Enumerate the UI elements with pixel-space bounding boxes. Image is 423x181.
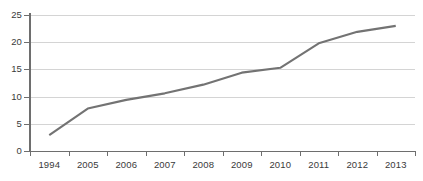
y-tick-mark: [24, 124, 30, 125]
x-tick-mark: [338, 151, 339, 156]
x-tick-label: 2013: [385, 159, 407, 170]
x-tick-mark: [146, 151, 147, 156]
x-tick-label: 2008: [192, 159, 214, 170]
x-tick-mark: [377, 151, 378, 156]
x-tick-label: 2011: [308, 159, 329, 170]
y-tick-mark: [24, 42, 30, 43]
x-tick-label: 2006: [115, 159, 137, 170]
x-tick-mark: [223, 151, 224, 156]
x-tick-mark: [415, 151, 416, 156]
x-tick-label: 2010: [269, 159, 291, 170]
x-tick-mark: [30, 151, 31, 156]
x-tick-mark: [300, 151, 301, 156]
x-tick-mark: [107, 151, 108, 156]
series-layer: [0, 0, 423, 181]
x-tick-label: 1994: [38, 159, 60, 170]
x-tick-mark: [184, 151, 185, 156]
y-tick-mark: [24, 69, 30, 70]
x-tick-label: 2012: [346, 159, 368, 170]
line-chart: 0510152025 19942005200620072008200920102…: [0, 0, 423, 181]
x-tick-label: 2007: [154, 159, 176, 170]
series-line: [49, 26, 396, 135]
y-tick-mark: [24, 97, 30, 98]
x-tick-label: 2009: [231, 159, 253, 170]
x-tick-mark: [261, 151, 262, 156]
x-tick-label: 2005: [77, 159, 99, 170]
x-tick-mark: [69, 151, 70, 156]
y-tick-mark: [24, 15, 30, 16]
